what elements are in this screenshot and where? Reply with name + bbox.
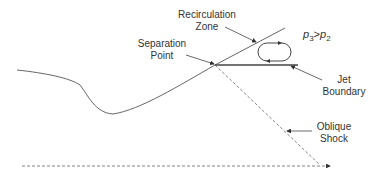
- label-line: Point: [132, 50, 192, 62]
- label-oblique-shock: Oblique Shock: [312, 121, 356, 145]
- shear-layer-line: [215, 28, 285, 65]
- label-line: Zone: [172, 21, 242, 33]
- oblique-shock-line: [215, 65, 320, 165]
- label-pressure-relation: p3>p2: [303, 28, 331, 45]
- label-jet-boundary: Jet Boundary: [316, 74, 372, 98]
- label-line: Oblique: [312, 121, 356, 133]
- label-recirculation-zone: Recirculation Zone: [172, 9, 242, 33]
- label-line: Jet: [316, 74, 372, 86]
- label-line: Shock: [312, 133, 356, 145]
- label-separation-point: Separation Point: [132, 38, 192, 62]
- label-line: Separation: [132, 38, 192, 50]
- p2-sub: 2: [326, 34, 330, 43]
- label-line: Boundary: [316, 86, 372, 98]
- label-line: Recirculation: [172, 9, 242, 21]
- surface-curve: [17, 65, 215, 114]
- recirculation-loop: [258, 43, 291, 61]
